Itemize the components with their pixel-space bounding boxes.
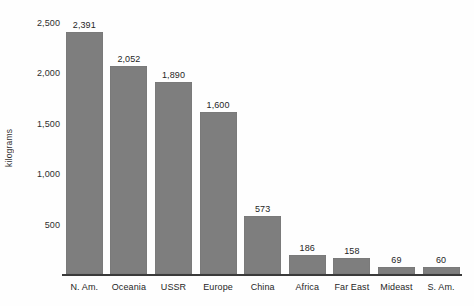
bar-group-ussr: 1,890 (151, 11, 196, 274)
bar-rect (289, 255, 326, 274)
bar-value-label: 69 (391, 255, 401, 265)
x-axis-tick-label: USSR (151, 282, 196, 302)
bars-container: 2,391 2,052 1,890 1,600 573 186 (62, 11, 464, 274)
x-axis-tick-labels: N. Am. Oceania USSR Europe China Africa … (62, 282, 464, 302)
bar-value-label: 158 (344, 246, 359, 256)
bar-group-china: 573 (240, 11, 285, 274)
bar-rect (244, 216, 281, 274)
bar-group-s-am: 60 (419, 11, 464, 274)
x-axis-tick-label: N. Am. (62, 282, 107, 302)
x-axis-baseline (62, 274, 462, 277)
bar-group-n-am: 2,391 (62, 11, 107, 274)
bar-rect (378, 267, 415, 274)
x-axis-tick-label: China (240, 282, 285, 302)
x-axis-tick-label: Europe (196, 282, 241, 302)
bar-group-europe: 1,600 (196, 11, 241, 274)
y-axis-tick-labels: 2,500 2,000 1,500 1,000 500 (14, 0, 60, 306)
bar-rect (333, 258, 370, 274)
bar-value-label: 60 (436, 255, 446, 265)
y-axis-tick-label: 500 (14, 220, 60, 230)
bar-value-label: 186 (300, 243, 315, 253)
y-axis-tick-label: 1,500 (14, 119, 60, 129)
y-axis-tick-label: 1,000 (14, 169, 60, 179)
bar-rect (200, 112, 237, 274)
bar-value-label: 1,600 (207, 100, 230, 110)
bar-group-mideast: 69 (374, 11, 419, 274)
bar-value-label: 1,890 (162, 70, 185, 80)
bar-rect (110, 66, 147, 274)
bar-value-label: 2,052 (117, 54, 140, 64)
x-axis-tick-label: Mideast (374, 282, 419, 302)
bar-group-far-east: 158 (330, 11, 375, 274)
x-axis-tick-label: S. Am. (419, 282, 464, 302)
bar-value-label: 2,391 (73, 20, 96, 30)
bar-rect (66, 32, 103, 274)
plot-area: 2,391 2,052 1,890 1,600 573 186 (62, 10, 464, 276)
y-axis-tick-label: 2,000 (14, 68, 60, 78)
bar-chart-figure: kilograms 2,500 2,000 1,500 1,000 500 2,… (0, 0, 474, 306)
bar-group-oceania: 2,052 (107, 11, 152, 274)
y-axis-tick-label: 2,500 (14, 18, 60, 28)
bar-rect (155, 82, 192, 273)
bar-value-label: 573 (255, 204, 270, 214)
x-axis-tick-label: Africa (285, 282, 330, 302)
bar-group-africa: 186 (285, 11, 330, 274)
x-axis-tick-label: Far East (330, 282, 375, 302)
x-axis-tick-label: Oceania (107, 282, 152, 302)
